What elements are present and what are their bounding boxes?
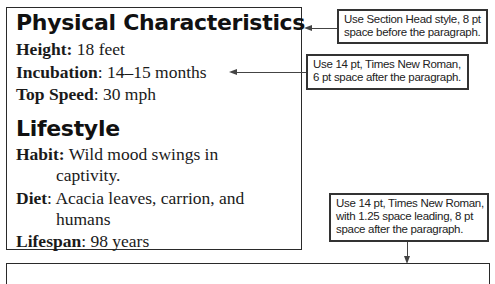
section-heading-physical: Physical Characteristics (16, 10, 305, 35)
callout-body-text: Use 14 pt, Times New Roman, 6 pt space a… (306, 54, 469, 90)
field-habit: Habit: Wild mood swings in (16, 144, 218, 165)
field-height: Height: 18 feet (16, 39, 125, 60)
arrow-line (310, 28, 337, 29)
callout-line: 6 pt space after the paragraph. (313, 71, 462, 84)
field-value: Wild mood swings in (65, 144, 219, 164)
arrow-line (236, 72, 306, 73)
arrow-line (407, 242, 408, 257)
callout-line: with 1.25 space leading, 8 pt (336, 210, 482, 223)
callout-line: Use 14 pt, Times New Roman, (313, 58, 462, 71)
field-diet: Diet: Acacia leaves, carrion, and (16, 188, 244, 209)
field-label: Habit: (16, 144, 65, 164)
callout-line: Use 14 pt, Times New Roman, (336, 197, 482, 210)
field-habit-continuation: captivity. (56, 165, 120, 186)
field-top-speed: Top Speed: 30 mph (16, 84, 156, 105)
field-diet-continuation: humans (56, 209, 110, 230)
field-lifespan: Lifespan: 98 years (16, 231, 149, 252)
arrow-left-icon (229, 69, 237, 75)
callout-line: space before the paragraph. (344, 26, 481, 39)
callout-section-head: Use Section Head style, 8 pt space befor… (337, 9, 488, 44)
section-heading-lifestyle: Lifestyle (16, 116, 120, 141)
field-value: : 98 years (81, 231, 149, 251)
callout-line: space after the paragraph. (336, 223, 482, 236)
field-label: Top Speed (16, 84, 94, 104)
callout-leading: Use 14 pt, Times New Roman, with 1.25 sp… (329, 193, 489, 242)
field-label: Incubation (16, 62, 98, 82)
field-value: : Acacia leaves, carrion, and (47, 188, 244, 208)
arrow-left-icon (304, 25, 312, 31)
callout-line: Use Section Head style, 8 pt (344, 13, 481, 26)
field-value: 18 feet (72, 39, 124, 59)
field-value: : 14–15 months (98, 62, 207, 82)
profile-box: Physical Characteristics Height: 18 feet… (6, 7, 302, 250)
field-value: : 30 mph (94, 84, 156, 104)
next-section-box (6, 263, 490, 284)
field-incubation: Incubation: 14–15 months (16, 62, 207, 83)
field-label: Height: (16, 39, 72, 59)
field-label: Diet (16, 188, 47, 208)
field-label: Lifespan (16, 231, 81, 251)
